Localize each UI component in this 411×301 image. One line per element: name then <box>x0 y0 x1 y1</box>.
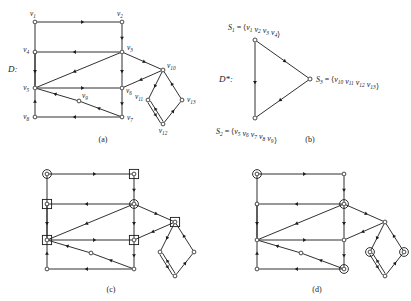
graph-vertex-v2 <box>120 20 124 24</box>
graph-vertex-v6 <box>132 238 136 242</box>
graph-vertex-v12 <box>383 274 387 278</box>
condensation-vertex-S2 <box>253 116 257 120</box>
graph-vertex-v13 <box>180 98 184 102</box>
graph-vertex-v8 <box>255 267 259 271</box>
figure-root: D: v1v2v3v4v5v6v7v8v9v10v11v12v13 (a) D*… <box>0 0 411 301</box>
graph-vertex-v4 <box>255 202 259 206</box>
graph-vertex-v13 <box>192 250 196 254</box>
graph-vertex-v9 <box>89 251 93 255</box>
condensation-dstar-label: D*: <box>218 74 233 84</box>
digraph-d-label: D: <box>7 64 18 74</box>
graph-vertex-v2 <box>342 172 346 176</box>
graph-vertex-v11 <box>158 250 162 254</box>
graph-vertex-v6 <box>120 86 124 90</box>
graph-vertex-v5 <box>33 86 37 90</box>
graph-vertex-v9 <box>299 251 303 255</box>
panel-d-caption: (d) <box>312 285 322 294</box>
graph-vertex-v12 <box>173 274 177 278</box>
graph-vertex-v3 <box>120 50 124 54</box>
graph-vertex-v1 <box>255 172 259 176</box>
graph-vertex-v7 <box>132 267 136 271</box>
graph-vertex-v9 <box>77 99 81 103</box>
graph-vertex-v10 <box>161 68 165 72</box>
graph-vertex-v5 <box>45 238 49 242</box>
graph-vertex-v11 <box>368 250 372 254</box>
graph-vertex-v3 <box>132 202 136 206</box>
figure-background <box>0 0 411 301</box>
graph-vertex-v6 <box>342 238 346 242</box>
condensation-vertex-S3 <box>308 77 312 81</box>
graph-vertex-v4 <box>45 202 49 206</box>
graph-vertex-v2 <box>132 172 136 176</box>
graph-vertex-v7 <box>120 115 124 119</box>
graph-vertex-v4 <box>33 50 37 54</box>
graph-vertex-v1 <box>45 172 49 176</box>
graph-vertex-v13 <box>402 250 406 254</box>
graph-vertex-v8 <box>45 267 49 271</box>
condensation-vertex-S1 <box>253 38 257 42</box>
graph-vertex-v3 <box>342 202 346 206</box>
graph-vertex-v11 <box>146 98 150 102</box>
graph-vertex-v7 <box>342 267 346 271</box>
graph-vertex-v10 <box>383 220 387 224</box>
graph-vertex-v8 <box>33 115 37 119</box>
graph-vertex-v10 <box>173 220 177 224</box>
graph-vertex-v1 <box>33 20 37 24</box>
panel-a-caption: (a) <box>99 135 108 144</box>
panel-c-caption: (c) <box>107 285 116 294</box>
graph-vertex-v5 <box>255 238 259 242</box>
panel-b-caption: (b) <box>305 135 315 144</box>
